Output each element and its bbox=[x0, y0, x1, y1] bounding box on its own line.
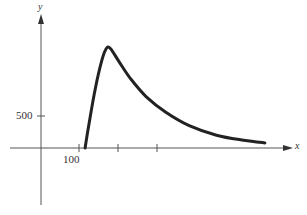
chart-canvas bbox=[0, 0, 307, 215]
data-curve bbox=[85, 47, 265, 148]
x-tick-label-100: 100 bbox=[63, 153, 80, 165]
y-axis-label: y bbox=[38, 1, 42, 12]
y-axis-arrow-icon bbox=[38, 14, 44, 24]
y-tick-label-500: 500 bbox=[16, 109, 33, 121]
x-axis-arrow-icon bbox=[283, 145, 293, 151]
x-axis-label: x bbox=[295, 140, 299, 151]
